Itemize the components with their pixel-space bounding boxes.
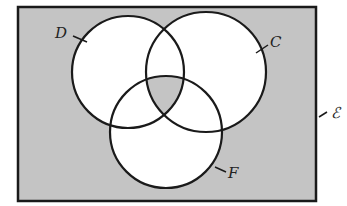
- label-universal-set: ℰ: [331, 104, 342, 122]
- label-d: D: [54, 24, 67, 42]
- label-universal-leader: [319, 112, 327, 117]
- label-c: C: [270, 33, 282, 51]
- venn-diagram: D C F ℰ: [0, 0, 347, 206]
- label-f: F: [227, 164, 239, 182]
